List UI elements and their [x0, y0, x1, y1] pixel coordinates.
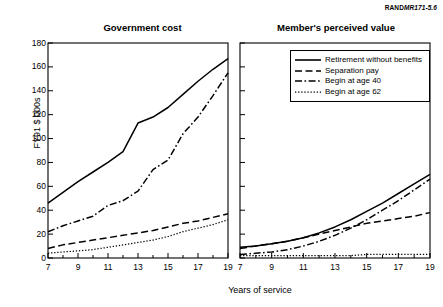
legend-label: Begin at age 62	[325, 87, 381, 97]
series-line-dashed	[48, 214, 228, 249]
figure-container: RANDMR171-5.6 Government cost Member's p…	[0, 0, 443, 307]
plot-area	[0, 0, 443, 307]
series-line-solid	[240, 174, 430, 247]
legend-swatch-dashed	[295, 66, 321, 75]
series-line-dash-dot	[48, 73, 228, 232]
series-line-dashed	[240, 213, 430, 249]
legend-swatch-dotted	[295, 87, 321, 96]
legend-item: Begin at age 40	[295, 76, 425, 86]
legend: Retirement without benefitsSeparation pa…	[290, 50, 430, 102]
legend-item: Retirement without benefits	[295, 55, 425, 65]
legend-label: Separation pay	[325, 66, 379, 76]
legend-item: Separation pay	[295, 66, 425, 76]
legend-label: Begin at age 40	[325, 76, 381, 86]
series-line-solid	[48, 59, 228, 204]
legend-swatch-solid	[295, 55, 321, 64]
series-line-dash-dot	[240, 179, 430, 254]
legend-item: Begin at age 62	[295, 87, 425, 97]
series-line-dotted	[48, 220, 228, 253]
legend-label: Retirement without benefits	[325, 55, 422, 65]
panel-frame-0	[48, 43, 228, 258]
legend-swatch-dash-dot	[295, 76, 321, 85]
